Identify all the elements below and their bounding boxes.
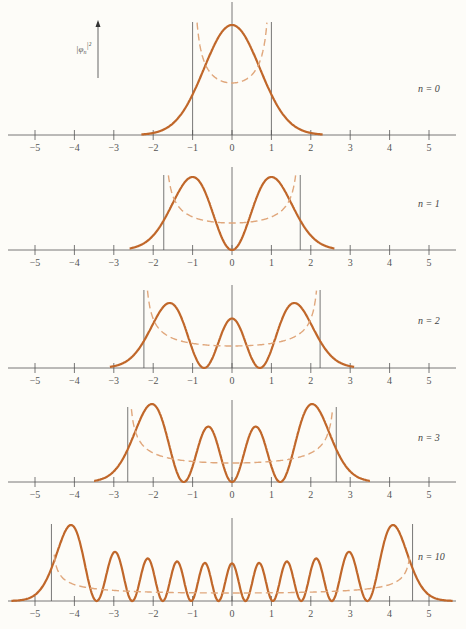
x-tick-label: 4 xyxy=(387,608,392,619)
panel-n0: −5−4−3−2−1012345 xyxy=(8,2,456,153)
x-tick-label: 3 xyxy=(348,608,353,619)
x-tick-label: −1 xyxy=(187,375,198,386)
x-tick-label: −5 xyxy=(30,142,41,153)
x-tick-label: −3 xyxy=(108,489,119,500)
x-tick-label: −2 xyxy=(148,489,159,500)
x-tick-label: −4 xyxy=(69,257,80,268)
panel-n1: −5−4−3−2−1012345 xyxy=(8,167,456,268)
panel-n10: −5−4−3−2−1012345 xyxy=(8,518,456,619)
panel-n3: −5−4−3−2−1012345 xyxy=(8,400,456,500)
y-axis-indicator: |φn|² xyxy=(76,20,101,78)
panel-label-n10: n = 10 xyxy=(418,551,445,562)
panel-label-n0: n = 0 xyxy=(418,83,440,94)
x-tick-label: 4 xyxy=(387,142,392,153)
arrow-up-icon xyxy=(96,20,101,27)
x-tick-label: 0 xyxy=(230,257,235,268)
x-tick-label: 2 xyxy=(308,257,313,268)
x-tick-label: −3 xyxy=(108,608,119,619)
x-tick-label: −4 xyxy=(69,608,80,619)
x-tick-label: −3 xyxy=(108,142,119,153)
x-tick-label: 5 xyxy=(427,489,432,500)
x-tick-label: 0 xyxy=(230,489,235,500)
x-tick-label: 1 xyxy=(269,142,274,153)
x-tick-label: 1 xyxy=(269,608,274,619)
x-tick-label: −3 xyxy=(108,375,119,386)
x-tick-label: −2 xyxy=(148,257,159,268)
x-tick-label: 3 xyxy=(348,489,353,500)
panel-label-n1: n = 1 xyxy=(418,198,440,209)
x-tick-label: 0 xyxy=(230,375,235,386)
x-tick-label: −1 xyxy=(187,608,198,619)
x-tick-label: −1 xyxy=(187,257,198,268)
panel-label-n3: n = 3 xyxy=(418,432,440,443)
y-axis-label: |φn|² xyxy=(76,41,92,55)
x-tick-label: 0 xyxy=(230,142,235,153)
x-tick-label: 4 xyxy=(387,257,392,268)
x-tick-label: 1 xyxy=(269,375,274,386)
x-tick-label: 4 xyxy=(387,375,392,386)
x-tick-label: 3 xyxy=(348,142,353,153)
x-tick-label: −1 xyxy=(187,489,198,500)
x-tick-label: −3 xyxy=(108,257,119,268)
x-tick-label: 1 xyxy=(269,257,274,268)
x-tick-label: −2 xyxy=(148,375,159,386)
x-tick-label: 5 xyxy=(427,142,432,153)
x-tick-label: 5 xyxy=(427,257,432,268)
x-tick-label: 2 xyxy=(308,608,313,619)
x-tick-label: 5 xyxy=(427,375,432,386)
x-tick-label: 2 xyxy=(308,375,313,386)
panel-label-n2: n = 2 xyxy=(418,315,440,326)
x-tick-label: −5 xyxy=(30,375,41,386)
panel-n2: −5−4−3−2−1012345 xyxy=(8,285,456,386)
x-tick-label: 2 xyxy=(308,489,313,500)
x-tick-label: −2 xyxy=(148,608,159,619)
x-tick-label: 1 xyxy=(269,489,274,500)
x-tick-label: 2 xyxy=(308,142,313,153)
figure: −5−4−3−2−1012345−5−4−3−2−1012345−5−4−3−2… xyxy=(0,0,466,629)
x-tick-label: 0 xyxy=(230,608,235,619)
x-tick-label: −4 xyxy=(69,489,80,500)
x-tick-label: −5 xyxy=(30,257,41,268)
x-tick-label: 4 xyxy=(387,489,392,500)
x-tick-label: 3 xyxy=(348,375,353,386)
x-tick-label: −5 xyxy=(30,489,41,500)
x-tick-label: 3 xyxy=(348,257,353,268)
x-tick-label: −1 xyxy=(187,142,198,153)
x-tick-label: −5 xyxy=(30,608,41,619)
x-tick-label: −4 xyxy=(69,375,80,386)
x-tick-label: −2 xyxy=(148,142,159,153)
x-tick-label: −4 xyxy=(69,142,80,153)
x-tick-label: 5 xyxy=(427,608,432,619)
